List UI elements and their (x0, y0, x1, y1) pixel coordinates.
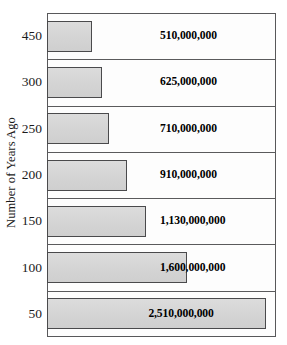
bar (47, 67, 102, 98)
y-axis-tick-label: 150 (0, 214, 42, 228)
bar (47, 160, 127, 191)
y-axis-tick-label: 100 (0, 261, 42, 275)
y-axis-tick-label: 200 (0, 168, 42, 182)
bar-value-label: 2,510,000,000 (148, 308, 213, 320)
axis-tick-line (47, 244, 276, 245)
axis-tick-line (47, 198, 276, 199)
bar-value-label: 1,130,000,000 (160, 215, 225, 227)
bar-value-label: 625,000,000 (160, 76, 217, 88)
y-axis-tick-label: 50 (0, 307, 42, 321)
chart-title (0, 0, 287, 3)
y-axis-tick-label: 250 (0, 122, 42, 136)
bar (47, 206, 146, 237)
axis-tick-line (47, 59, 276, 60)
y-axis-tick-label: 300 (0, 75, 42, 89)
axis-tick-line (47, 106, 276, 107)
bar-value-label: 510,000,000 (160, 30, 217, 42)
bar-value-label: 910,000,000 (160, 169, 217, 181)
bar-chart: Number of Years Ago 45030025020015010050… (0, 0, 287, 345)
bar (47, 21, 92, 52)
bar-value-label: 710,000,000 (160, 123, 217, 135)
bar (47, 113, 109, 144)
y-axis-tick-label: 450 (0, 29, 42, 43)
bar-value-label: 1,600,000,000 (160, 262, 225, 274)
axis-tick-line (47, 291, 276, 292)
axis-tick-line (47, 152, 276, 153)
